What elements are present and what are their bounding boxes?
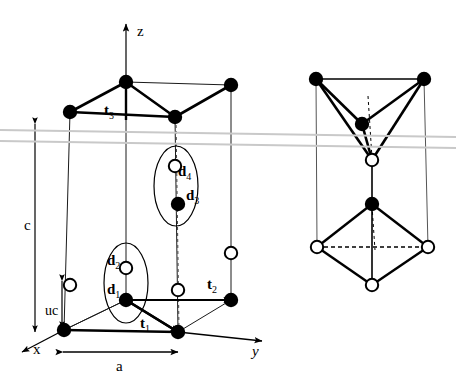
lower-tet-edge-c bbox=[317, 247, 372, 285]
d1-label: d1 bbox=[107, 281, 120, 300]
open-circle-atom bbox=[120, 262, 132, 274]
filled-circle-atom bbox=[168, 110, 182, 124]
bond-top-right bbox=[175, 85, 231, 117]
right-frame-left-vertical bbox=[316, 79, 317, 247]
open-circle-atom bbox=[172, 284, 184, 296]
filled-circle-atom bbox=[355, 117, 369, 131]
scan-line-lower bbox=[0, 141, 456, 148]
t3-label: t3 bbox=[104, 102, 114, 121]
filled-circle-atom bbox=[171, 325, 185, 339]
open-circle-atom bbox=[225, 247, 237, 259]
bond-top-front bbox=[126, 82, 175, 117]
filled-circle-atom bbox=[57, 323, 71, 337]
y-axis-arrow bbox=[178, 332, 262, 341]
c-dimension-label: c bbox=[24, 217, 31, 233]
scan-artifact-lines bbox=[0, 130, 456, 148]
t2-label: t2 bbox=[207, 276, 217, 295]
d4-label: d4 bbox=[178, 163, 191, 182]
vertical-edge-left bbox=[64, 112, 70, 330]
open-circle-atom bbox=[64, 279, 76, 291]
figure-labels: zxycucat1t2t3d1d2d3d4 bbox=[24, 23, 259, 374]
y-axis-label: y bbox=[250, 343, 259, 359]
lower-tet-edge-b bbox=[372, 204, 428, 247]
bond-top-left bbox=[70, 82, 126, 112]
a-dimension-label: a bbox=[116, 358, 123, 374]
open-circle-atom bbox=[311, 241, 323, 253]
open-circle-atoms bbox=[64, 154, 434, 296]
filled-circle-atom bbox=[365, 197, 379, 211]
d2-label: d2 bbox=[107, 252, 120, 271]
open-circle-atom bbox=[422, 241, 434, 253]
lower-tet-edge-d bbox=[372, 247, 428, 285]
lower-tet-edge-a bbox=[317, 204, 372, 247]
uc-dimension-label: uc bbox=[45, 303, 58, 318]
upper-tet-edge-a bbox=[316, 79, 362, 124]
filled-circle-atom bbox=[224, 293, 238, 307]
open-circle-atom bbox=[366, 279, 378, 291]
bond-top-horizontal bbox=[70, 112, 175, 117]
filled-circle-atom bbox=[119, 75, 133, 89]
filled-circle-atom bbox=[417, 72, 431, 86]
filled-circle-atom bbox=[309, 72, 323, 86]
upper-tet-edge-b bbox=[362, 79, 424, 124]
open-circle-atom bbox=[366, 154, 378, 166]
bond-bottom-horizontal bbox=[64, 330, 178, 332]
z-axis-label: z bbox=[137, 23, 144, 39]
figure-canvas: zxycucat1t2t3d1d2d3d4 bbox=[0, 0, 456, 386]
bottom-edge-right-diag bbox=[178, 300, 231, 332]
x-axis-label: x bbox=[33, 341, 41, 357]
crystal-structure-svg: zxycucat1t2t3d1d2d3d4 bbox=[0, 0, 456, 386]
filled-circle-atom bbox=[224, 78, 238, 92]
filled-circle-atom bbox=[171, 197, 185, 211]
top-edge-back bbox=[126, 82, 231, 85]
x-direction-thin bbox=[64, 300, 126, 330]
t1-vector-arrow bbox=[126, 300, 178, 332]
filled-circle-atom bbox=[63, 105, 77, 119]
right-frame-right-vertical bbox=[424, 79, 428, 247]
filled-circle-atom bbox=[119, 293, 133, 307]
